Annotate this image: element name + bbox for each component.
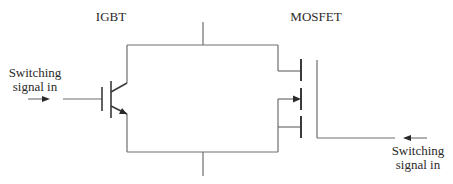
circuit-schematic [0, 0, 453, 184]
igbt-label: IGBT [93, 10, 129, 24]
right-signal-arrow-icon [403, 135, 411, 141]
left-signal-label-line2: signal in [6, 80, 64, 94]
igbt-mosfet-parallel-diagram: IGBT MOSFET Switching signal in Switchin… [0, 0, 453, 184]
right-signal-label: Switching signal in [389, 144, 447, 172]
left-signal-label-line1: Switching [6, 66, 64, 80]
right-signal-label-line2: signal in [389, 158, 447, 172]
mosfet-body-arrow-icon [293, 96, 301, 103]
igbt-collector-diagonal [111, 83, 127, 92]
right-signal-label-line1: Switching [389, 144, 447, 158]
left-signal-arrow-icon [42, 96, 50, 102]
left-signal-label: Switching signal in [6, 66, 64, 94]
mosfet-label: MOSFET [286, 10, 346, 24]
